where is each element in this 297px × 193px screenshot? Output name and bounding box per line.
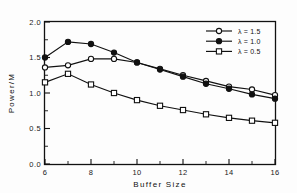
marker-open-square [180,107,185,112]
x-axis-ticks [45,159,275,164]
marker-open-circle [65,63,70,68]
y-tick-label: 1.0 [29,89,41,98]
marker-filled-circle [216,39,221,44]
marker-filled-circle [65,39,70,44]
series-line [45,74,275,123]
marker-open-circle [249,87,254,92]
marker-open-circle [42,65,47,70]
y-axis-ticks [45,22,50,164]
marker-open-square [203,112,208,117]
marker-filled-circle [134,60,139,65]
x-tick-label: 6 [43,168,48,177]
x-tick-label: 10 [132,168,141,177]
marker-filled-circle [88,41,93,46]
legend-label: λ = 1.0 [238,38,261,45]
legend-entry: λ = 1.5 [206,28,261,35]
marker-open-square [134,98,139,103]
x-tick-label: 16 [270,168,279,177]
chart-figure: 0.00.51.01.52.0 6810121416 Buffer Size P… [0,0,297,193]
x-axis-title: Buffer Size [133,180,186,189]
y-tick-label: 0.5 [29,124,41,133]
marker-filled-circle [249,92,254,97]
marker-open-square [111,90,116,95]
marker-open-square [249,118,254,123]
y-tick-label: 0.0 [29,160,41,169]
marker-open-square [272,120,277,125]
legend-label: λ = 1.5 [238,28,261,35]
y-tick-label: 1.5 [29,53,41,62]
x-tick-label: 14 [224,168,233,177]
marker-open-circle [216,28,221,33]
y-axis-tick-labels: 0.00.51.01.52.0 [29,18,41,169]
x-tick-label: 8 [89,168,94,177]
marker-filled-circle [157,67,162,72]
marker-filled-circle [226,86,231,91]
marker-open-square [226,115,231,120]
marker-open-square [88,82,93,87]
legend-entry: λ = 0.5 [206,48,261,55]
marker-filled-circle [111,50,116,55]
marker-open-circle [111,56,116,61]
marker-open-square [216,49,221,54]
marker-open-square [42,80,47,85]
marker-filled-circle [42,55,47,60]
marker-open-circle [88,56,93,61]
marker-open-square [65,71,70,76]
x-axis-tick-labels: 6810121416 [43,168,280,177]
marker-filled-circle [272,96,277,101]
y-tick-label: 2.0 [29,18,41,27]
series-line [45,59,275,95]
marker-filled-circle [203,81,208,86]
series-3 [42,71,277,125]
x-tick-label: 12 [178,168,187,177]
chart-canvas: 0.00.51.01.52.0 6810121416 Buffer Size P… [0,0,297,193]
legend-label: λ = 0.5 [238,48,261,55]
legend-entry: λ = 1.0 [206,38,261,45]
y-axis-title: Power/M [7,73,16,114]
marker-filled-circle [180,74,185,79]
chart-legend: λ = 1.5λ = 1.0λ = 0.5 [206,28,261,55]
marker-open-square [157,103,162,108]
